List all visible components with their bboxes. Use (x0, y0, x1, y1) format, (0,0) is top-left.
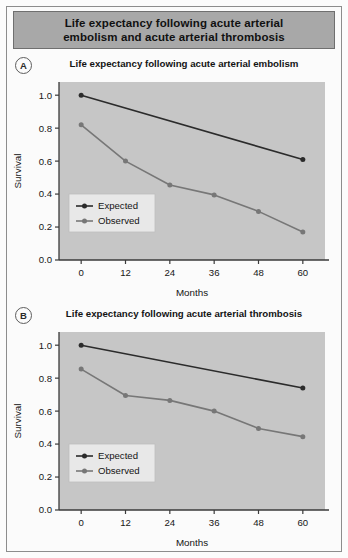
legend-marker-expected (82, 454, 87, 459)
data-point-expected (79, 93, 84, 98)
data-point-expected (79, 343, 84, 348)
figure-title-banner: Life expectancy following acute arterial… (13, 11, 335, 49)
data-point-observed (300, 434, 305, 439)
data-point-observed (300, 229, 305, 234)
legend-label-observed: Observed (98, 465, 140, 476)
y-tick-label: 0.4 (39, 188, 53, 199)
x-tick-label: 12 (120, 267, 131, 278)
panel-a-badge: A (15, 57, 32, 74)
chart-canvas: 0.00.20.40.60.81.001224364860MonthsSurvi… (9, 326, 339, 552)
figure-title: Life expectancy following acute arterial… (57, 16, 291, 44)
data-point-observed (167, 183, 172, 188)
x-axis-title: Months (176, 537, 208, 548)
x-tick-label: 60 (297, 517, 308, 528)
panel-b-badge: B (15, 307, 32, 324)
figure-title-line-1: Life expectancy following acute arterial (65, 17, 284, 29)
data-point-expected (300, 157, 305, 162)
data-point-observed (212, 192, 217, 197)
legend: ExpectedObserved (69, 444, 155, 482)
y-tick-label: 0.2 (39, 221, 52, 232)
y-tick-label: 0.6 (39, 406, 52, 417)
legend-label-observed: Observed (98, 215, 140, 226)
legend-marker-observed (82, 219, 87, 224)
legend-label-expected: Expected (98, 200, 138, 211)
x-tick-label: 0 (78, 517, 83, 528)
x-tick-label: 48 (253, 517, 264, 528)
legend-marker-observed (82, 469, 87, 474)
data-point-observed (79, 367, 84, 372)
legend-marker-expected (82, 204, 87, 209)
data-point-observed (123, 159, 128, 164)
legend: ExpectedObserved (69, 194, 155, 232)
x-tick-label: 36 (209, 267, 220, 278)
data-point-observed (212, 409, 217, 414)
y-tick-label: 1.0 (39, 340, 52, 351)
y-tick-label: 0.8 (39, 123, 52, 134)
y-tick-label: 0.6 (39, 156, 52, 167)
y-axis-title: Survival (12, 404, 23, 439)
chart-canvas: 0.00.20.40.60.81.001224364860MonthsSurvi… (9, 76, 339, 302)
y-tick-label: 1.0 (39, 90, 52, 101)
plot-background (59, 82, 325, 260)
panel-a: A Life expectancy following acute arteri… (9, 54, 339, 302)
panel-a-title: Life expectancy following acute arterial… (37, 58, 331, 69)
x-tick-label: 24 (164, 517, 175, 528)
x-tick-label: 60 (297, 267, 308, 278)
data-point-observed (79, 122, 84, 127)
figure-title-line-2: embolism and acute arterial thrombosis (63, 31, 285, 43)
data-point-observed (167, 398, 172, 403)
data-point-observed (256, 426, 261, 431)
y-axis-title: Survival (12, 154, 23, 189)
data-point-observed (123, 393, 128, 398)
y-tick-label: 0.0 (39, 254, 52, 265)
x-axis-title: Months (176, 287, 208, 298)
x-tick-label: 0 (78, 267, 83, 278)
x-tick-label: 12 (120, 517, 131, 528)
x-tick-label: 48 (253, 267, 264, 278)
panel-b-title: Life expectancy following acute arterial… (37, 308, 331, 319)
data-point-observed (256, 209, 261, 214)
plot-background (59, 332, 325, 510)
x-tick-label: 36 (209, 517, 220, 528)
legend-label-expected: Expected (98, 450, 138, 461)
x-tick-label: 24 (164, 267, 175, 278)
panel-b: B Life expectancy following acute arteri… (9, 304, 339, 552)
panel-a-plot: 0.00.20.40.60.81.001224364860MonthsSurvi… (9, 76, 339, 302)
panel-b-plot: 0.00.20.40.60.81.001224364860MonthsSurvi… (9, 326, 339, 552)
y-tick-label: 0.8 (39, 373, 52, 384)
data-point-expected (300, 386, 305, 391)
figure-root: Life expectancy following acute arterial… (0, 0, 348, 558)
y-tick-label: 0.0 (39, 504, 52, 515)
y-tick-label: 0.4 (39, 438, 53, 449)
y-tick-label: 0.2 (39, 471, 52, 482)
